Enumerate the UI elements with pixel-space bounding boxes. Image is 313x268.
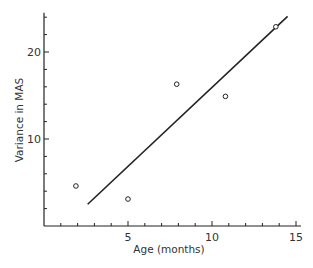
y-axis-label: Variance in MAS: [13, 77, 25, 162]
x-axis-label: Age (months): [133, 243, 204, 255]
data-point: [174, 82, 179, 87]
x-tick-label: 5: [125, 231, 132, 244]
x-tick-label: 10: [205, 231, 219, 244]
axes: [44, 13, 301, 226]
data-point: [223, 94, 228, 99]
x-tick-label: 15: [289, 231, 303, 244]
y-tick-label: 10: [27, 133, 41, 146]
regression-line: [88, 16, 288, 204]
tick-labels: 510151020: [27, 46, 303, 244]
y-tick-label: 20: [27, 46, 41, 59]
fit-line: [88, 16, 288, 204]
data-point: [126, 197, 131, 202]
data-point: [274, 24, 279, 29]
data-points: [74, 24, 279, 201]
ticks: [44, 17, 296, 226]
data-point: [74, 184, 79, 189]
plot-area: 510151020 Age (months) Variance in MAS: [0, 0, 313, 268]
scatter-chart: 510151020 Age (months) Variance in MAS: [0, 0, 313, 268]
